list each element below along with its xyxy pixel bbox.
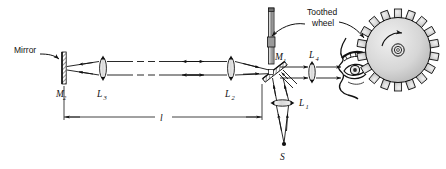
lens-L1[interactable]	[270, 100, 294, 106]
toothed-wheel-label-line2: wheel	[311, 18, 334, 28]
long-arm-beam	[107, 62, 227, 76]
beam-splitter-M1-sub: 1	[283, 57, 286, 64]
lens-L2-sub: 2	[232, 94, 236, 101]
long-arm-direction-arrows	[182, 62, 204, 76]
L2-to-M1-rays	[235, 62, 273, 76]
lens-L4-sub: 4	[316, 55, 320, 62]
lens-L3-label: L	[96, 89, 102, 99]
figure-canvas: Mirror Toothed wheel M 2 L 3 L 2 M 1 L 4…	[0, 0, 446, 169]
mirror-convergent-rays	[67, 62, 99, 76]
lens-L1-label: L	[298, 98, 304, 108]
toothed-wheel[interactable]	[357, 9, 439, 91]
lens-L1-sub: 1	[306, 103, 309, 110]
optics-diagram: Mirror Toothed wheel M 2 L 3 L 2 M 1 L 4…	[0, 0, 446, 169]
lens-L4-label: L	[308, 50, 314, 60]
source-S-label: S	[280, 152, 285, 162]
mirror-label: Mirror	[14, 45, 36, 55]
source-S	[282, 142, 286, 146]
lens-L2[interactable]	[228, 56, 235, 81]
focus-aperture	[269, 70, 274, 75]
mirror-M2-sub: 2	[63, 94, 67, 101]
lens-L4[interactable]	[309, 61, 315, 83]
M1-reflected-rays	[279, 70, 297, 88]
toothed-wheel-label-line1: Toothed	[307, 7, 338, 17]
source-beam-arrows	[274, 85, 288, 131]
lens-L2-label: L	[224, 89, 230, 99]
distance-label: l	[160, 113, 163, 123]
mirror-callout-arrow	[40, 54, 59, 59]
lens-L3-sub: 3	[103, 94, 108, 101]
dimension-length-l	[64, 84, 262, 120]
wheel-shaft	[267, 8, 275, 64]
source-beam	[273, 78, 289, 143]
lens-L3[interactable]	[100, 56, 107, 81]
mirror-M2[interactable]	[62, 52, 66, 84]
